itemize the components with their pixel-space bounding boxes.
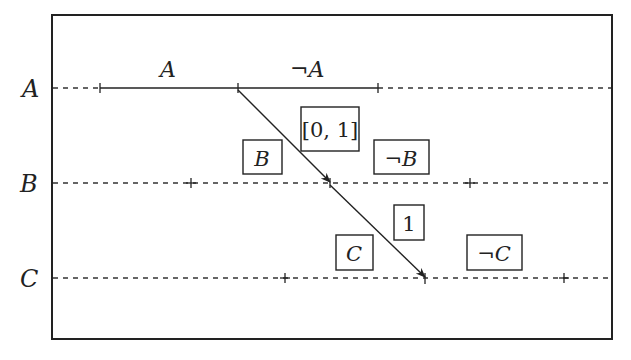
box-interval: [0, 1] bbox=[301, 107, 359, 151]
row-c bbox=[53, 273, 611, 284]
row-label-b: B bbox=[19, 170, 38, 198]
row-label-a: A bbox=[20, 75, 39, 103]
box-not-b: ¬B bbox=[374, 140, 429, 174]
svg-text:1: 1 bbox=[402, 212, 415, 236]
box-c: C bbox=[336, 235, 373, 270]
box-b: B bbox=[243, 140, 282, 174]
row-a bbox=[53, 83, 611, 93]
segment-label-not-a: ¬A bbox=[290, 57, 324, 82]
frame-border bbox=[52, 15, 612, 339]
svg-text:¬B: ¬B bbox=[384, 147, 417, 171]
box-not-c: ¬C bbox=[467, 235, 522, 270]
diagram-canvas: A B C A ¬A [0, 1] B ¬B 1 C ¬C bbox=[0, 0, 631, 360]
row-label-c: C bbox=[20, 265, 38, 293]
svg-text:C: C bbox=[346, 242, 362, 266]
svg-text:B: B bbox=[253, 147, 269, 171]
svg-text:[0, 1]: [0, 1] bbox=[302, 118, 358, 142]
svg-text:¬C: ¬C bbox=[477, 242, 511, 266]
box-one: 1 bbox=[394, 205, 424, 240]
segment-label-a: A bbox=[158, 57, 176, 82]
